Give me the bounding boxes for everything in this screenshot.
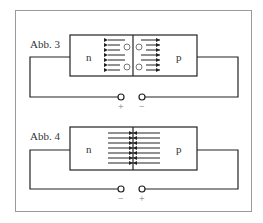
terminal-sign-right-4: +: [139, 193, 145, 204]
wire-right-3: [145, 57, 238, 97]
p-region-label-3: p: [176, 51, 182, 63]
figure-3-circuit: [30, 35, 238, 100]
terminal-sign-right-3: −: [139, 101, 145, 112]
terminal-right-4: [139, 186, 145, 192]
n-region-label-3: n: [86, 51, 92, 63]
terminal-right-3: [139, 94, 145, 100]
figure-4-circuit: [30, 127, 238, 192]
arrows-left-3: [108, 40, 125, 70]
terminal-sign-left-4: −: [118, 193, 124, 204]
n-region-label-4: n: [86, 143, 92, 155]
p-region-label-4: p: [176, 143, 182, 155]
arrows-right-3: [141, 40, 160, 70]
figure-4-label: Abb. 4: [30, 130, 60, 142]
terminal-left-4: [118, 186, 124, 192]
terminal-sign-left-3: +: [118, 101, 124, 112]
terminal-left-3: [118, 94, 124, 100]
diagram-canvas: [0, 0, 263, 223]
figure-3-label: Abb. 3: [30, 38, 60, 50]
wire-left-3: [30, 57, 118, 97]
